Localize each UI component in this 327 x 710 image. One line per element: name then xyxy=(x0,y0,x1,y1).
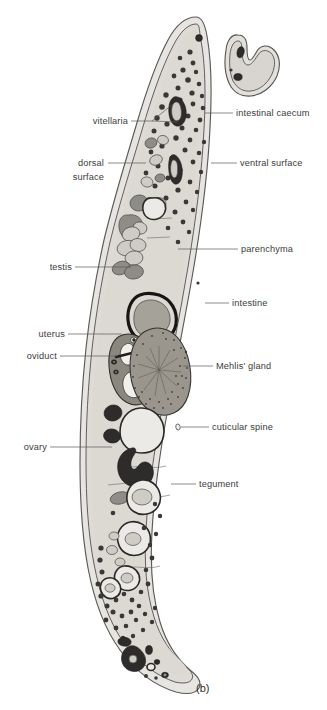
figure-container: vitellaria intestinal caecum dorsal surf… xyxy=(0,0,327,710)
spine-dot-upper xyxy=(196,281,199,284)
intestinal-caecum-section xyxy=(225,35,279,96)
label-uterus: uterus xyxy=(39,329,66,339)
label-oviduct: oviduct xyxy=(27,351,57,361)
label-cuticular-spine: cuticular spine xyxy=(212,422,273,432)
label-ventral-surface: ventral surface xyxy=(240,158,303,168)
label-ovary: ovary xyxy=(24,442,47,452)
label-tegument: tegument xyxy=(199,479,239,489)
label-testis: testis xyxy=(50,262,73,272)
label-dorsal-surface-line2: surface xyxy=(73,172,104,182)
label-intestine: intestine xyxy=(232,298,268,308)
label-intestinal-caecum: intestinal caecum xyxy=(236,108,310,118)
spine-dot-mid xyxy=(185,351,187,353)
label-dorsal-surface-line1: dorsal xyxy=(78,158,104,168)
cuticular-spine-marker xyxy=(175,424,181,431)
label-vitellaria: vitellaria xyxy=(93,116,129,126)
label-parenchyma: parenchyma xyxy=(241,244,294,254)
label-mehlis-gland: Mehlis' gland xyxy=(216,361,271,371)
figure-caption: (b) xyxy=(196,682,209,694)
trematode-section-figure: vitellaria intestinal caecum dorsal surf… xyxy=(0,0,327,710)
